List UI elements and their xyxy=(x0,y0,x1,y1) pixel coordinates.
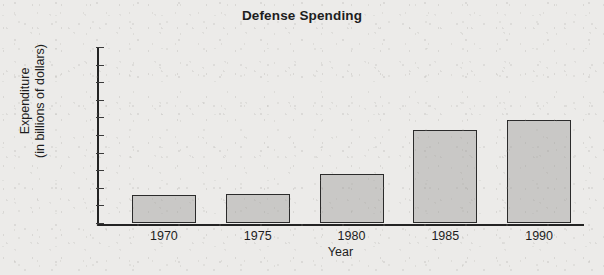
y-axis-tick xyxy=(96,47,104,48)
x-axis-title: Year xyxy=(97,245,584,259)
x-axis-tick-label: 1985 xyxy=(431,229,459,243)
bar-1985 xyxy=(413,130,477,223)
bar-1990 xyxy=(507,120,571,223)
y-axis-tick xyxy=(96,223,104,224)
y-axis-title: Expenditure (in billions of dollars) xyxy=(18,21,48,181)
bar-1980 xyxy=(320,174,384,223)
chart-title: Defense Spending xyxy=(0,8,604,23)
y-axis-line xyxy=(97,47,99,225)
y-axis-tick xyxy=(96,82,104,83)
x-axis-line xyxy=(97,224,584,226)
y-axis-tick xyxy=(96,170,104,171)
x-axis-tick-label: 1990 xyxy=(525,229,553,243)
bar-1970 xyxy=(132,195,196,223)
bar-chart: Defense Spending Expenditure (in billion… xyxy=(0,0,604,275)
y-axis-title-line-2: (in billions of dollars) xyxy=(33,21,48,181)
y-axis-tick xyxy=(96,188,104,189)
x-axis-tick-labels: 19701975198019851990 xyxy=(97,229,584,245)
x-axis-tick-label: 1970 xyxy=(150,229,178,243)
y-axis-tick xyxy=(96,153,104,154)
x-axis-tick-label: 1975 xyxy=(244,229,272,243)
y-axis-title-line-1: Expenditure xyxy=(18,21,33,181)
y-axis-tick xyxy=(96,135,104,136)
bar-1975 xyxy=(226,194,290,223)
y-axis-tick xyxy=(96,205,104,206)
plot-area xyxy=(97,47,584,225)
y-axis-tick xyxy=(96,65,104,66)
y-axis-tick xyxy=(96,117,104,118)
x-axis-tick-label: 1980 xyxy=(338,229,366,243)
y-axis-tick xyxy=(96,100,104,101)
